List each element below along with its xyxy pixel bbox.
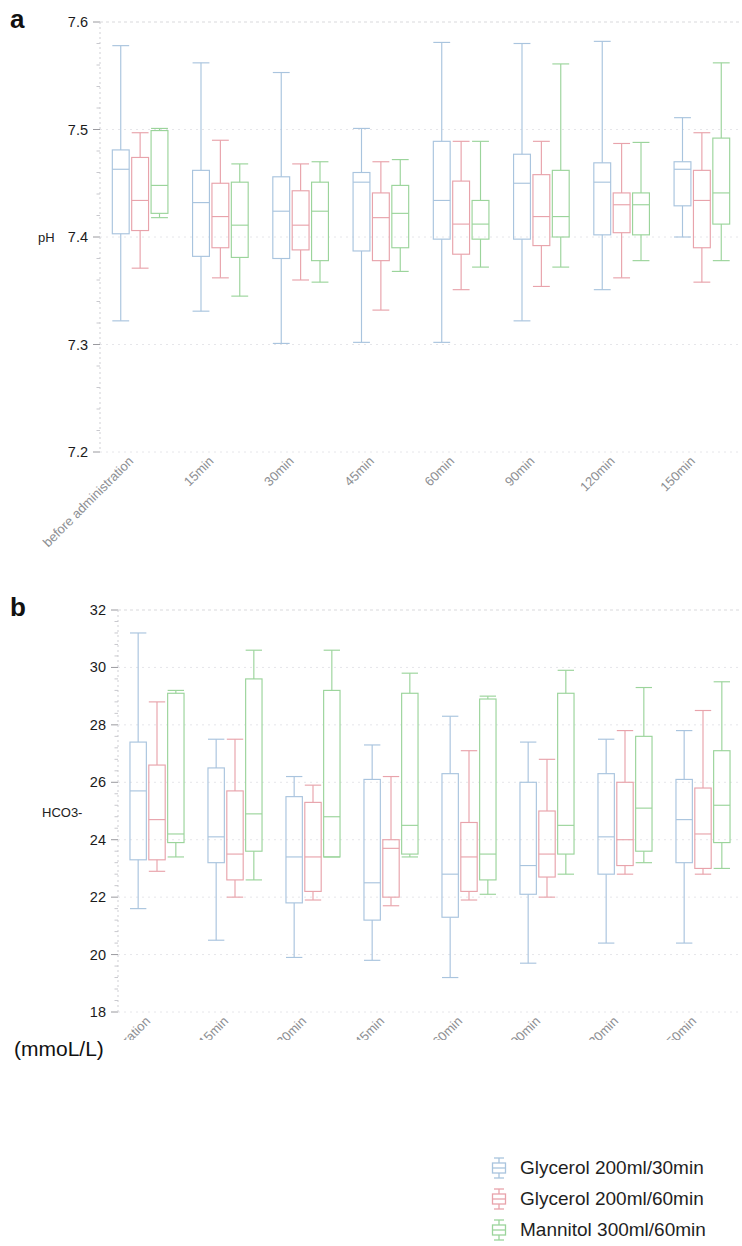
panel-b-letter: b [10, 592, 26, 623]
box-plot [613, 143, 630, 277]
svg-text:7.6: 7.6 [68, 14, 88, 30]
box-plot [676, 731, 692, 943]
box-plot [353, 128, 370, 342]
svg-text:60min: 60min [422, 454, 458, 490]
svg-text:28: 28 [90, 717, 106, 733]
box-plot [558, 670, 574, 874]
box-plot [520, 742, 536, 963]
panel-b-plot: 1820222426283032before administration15m… [0, 590, 742, 1040]
svg-text:15min: 15min [181, 454, 217, 490]
svg-text:24: 24 [90, 832, 106, 848]
box-plot [594, 41, 611, 289]
svg-text:90min: 90min [507, 1014, 543, 1040]
box-plot [480, 696, 496, 894]
box-plot [151, 128, 168, 217]
legend-box-icon [487, 1186, 511, 1212]
svg-text:7.3: 7.3 [68, 337, 88, 353]
legend-item-label: Glycerol 200ml/60min [520, 1188, 704, 1210]
svg-text:30min: 30min [261, 454, 297, 490]
box-plot [695, 711, 711, 875]
box-plot [273, 73, 290, 344]
panel-b: b HCO3- 1820222426283032before administr… [0, 590, 742, 1040]
box-plot [674, 118, 691, 237]
svg-text:32: 32 [90, 602, 106, 618]
svg-text:30: 30 [90, 659, 106, 675]
svg-text:15min: 15min [195, 1014, 231, 1040]
svg-text:7.4: 7.4 [68, 229, 88, 245]
box-plot [617, 731, 633, 875]
box-plot [402, 673, 418, 857]
box-plot [514, 44, 531, 321]
figure-container: a pH 7.27.37.47.57.6before administratio… [0, 0, 742, 1246]
box-plot [286, 777, 302, 958]
box-plot [633, 142, 650, 260]
box-plot [552, 64, 569, 267]
svg-text:7.5: 7.5 [68, 122, 88, 138]
svg-text:22: 22 [90, 889, 106, 905]
box-plot [132, 133, 149, 268]
legend-item: Mannitol 300ml/60min [487, 1214, 742, 1245]
box-plot [112, 46, 129, 321]
box-plot [693, 133, 710, 282]
svg-text:20: 20 [90, 947, 106, 963]
box-plot [461, 751, 477, 900]
svg-text:before administration: before administration [40, 454, 136, 550]
box-plot [714, 682, 730, 869]
svg-text:150min: 150min [658, 1014, 699, 1040]
box-plot [442, 716, 458, 977]
box-plot [392, 160, 409, 272]
legend-item-label: Mannitol 300ml/60min [520, 1219, 706, 1241]
legend-box-icon [487, 1217, 511, 1243]
box-plot [292, 164, 309, 280]
box-plot [598, 739, 614, 943]
box-plot [533, 141, 550, 286]
box-plot [713, 63, 730, 261]
box-plot [246, 650, 262, 880]
panel-a-plot: 7.27.37.47.57.6before administration15mi… [0, 0, 742, 580]
legend-box-icon [487, 1155, 511, 1181]
box-plot [305, 785, 321, 900]
box-plot [312, 162, 329, 282]
box-plot [364, 745, 380, 960]
svg-text:45min: 45min [341, 454, 377, 490]
box-plot [539, 759, 555, 897]
svg-text:60min: 60min [429, 1014, 465, 1040]
panel-a-y-axis-label: pH [38, 230, 55, 245]
panel-b-y-axis-label: HCO3- [42, 805, 82, 820]
box-plot [433, 42, 450, 342]
legend-item-label: Glycerol 200ml/30min [520, 1157, 704, 1179]
box-plot [383, 777, 399, 906]
box-plot [324, 650, 340, 857]
box-plot [193, 63, 210, 311]
box-plot [168, 690, 184, 857]
box-plot [149, 702, 165, 871]
box-plot [231, 164, 248, 296]
svg-text:120min: 120min [577, 454, 618, 495]
box-plot [130, 633, 146, 909]
svg-text:90min: 90min [502, 454, 538, 490]
svg-text:18: 18 [90, 1004, 106, 1020]
box-plot [636, 688, 652, 863]
svg-text:45min: 45min [351, 1014, 387, 1040]
panel-a-letter: a [10, 4, 24, 35]
legend-item: Glycerol 200ml/30min [487, 1152, 742, 1183]
svg-text:150min: 150min [657, 454, 698, 495]
box-plot [372, 162, 389, 310]
svg-text:26: 26 [90, 774, 106, 790]
box-plot [453, 141, 470, 289]
box-plot [472, 141, 489, 267]
legend-item: Glycerol 200ml/60min [487, 1183, 742, 1214]
box-plot [227, 739, 243, 897]
svg-text:30min: 30min [273, 1014, 309, 1040]
box-plot [212, 140, 229, 278]
unit-label: (mmoL/L) [14, 1037, 104, 1061]
panel-a: a pH 7.27.37.47.57.6before administratio… [0, 0, 742, 580]
svg-text:7.2: 7.2 [68, 444, 88, 460]
legend: Glycerol 200ml/30minGlycerol 200ml/60min… [487, 1152, 742, 1245]
svg-text:120min: 120min [580, 1014, 621, 1040]
